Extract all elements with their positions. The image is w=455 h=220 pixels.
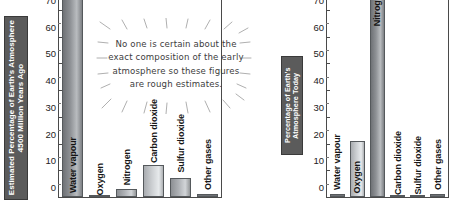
chart-panel-past: Estimated Percentage of Earth's Atmosphe…	[0, 0, 228, 220]
bar-slot-water-vapour-past: Water vapour	[59, 0, 86, 197]
x-axis-baseline-today	[326, 197, 449, 198]
y-tick-0-past	[58, 197, 62, 198]
bar-nitrogen-past[interactable]	[116, 189, 137, 197]
y-ticklabel-0-past: 0	[51, 182, 56, 193]
y-ticklabel-20-today: 20	[313, 128, 324, 139]
two-chart-figure: Estimated Percentage of Earth's Atmosphe…	[0, 0, 455, 220]
bar-water-vapour-today[interactable]	[330, 194, 345, 197]
bar-other-gases-past[interactable]	[197, 194, 218, 197]
y-ticklabel-70-past: 70	[45, 0, 56, 5]
bar-slot-oxygen-today: Oxygen	[347, 0, 367, 197]
bar-group-today: Water vapour Oxygen Nitrogen Carbon diox…	[327, 0, 448, 197]
bar-label-other-gases-today: Other gases	[433, 139, 443, 190]
annotation-text: No one is certain about the exact compos…	[106, 38, 246, 91]
y-axis-title-today: Percentage of Earth's Atmosphere Today	[281, 56, 303, 155]
bar-label-sulfur-dioxide-past: Sulfur dioxide	[176, 114, 186, 173]
y-ticklabel-10-today: 10	[313, 155, 324, 166]
bar-label-oxygen-past: Oxygen	[95, 163, 105, 195]
y-ticklabel-70-today: 70	[313, 0, 324, 5]
plot-area-today: 0 10 20 30 40 50 60 70 80 Water vapour O…	[304, 0, 449, 214]
plot-right-border-today	[448, 0, 449, 198]
y-ticklabel-60-today: 60	[313, 21, 324, 32]
bar-slot-sulfur-dioxide-today: Sulfur dioxide	[408, 0, 428, 197]
y-ticklabel-30-past: 30	[45, 101, 56, 112]
y-ticklabel-10-past: 10	[45, 155, 56, 166]
bar-label-sulfur-dioxide-today: Sulfur dioxide	[413, 136, 423, 195]
bar-oxygen-past[interactable]	[89, 195, 110, 197]
y-ticklabel-40-today: 40	[313, 75, 324, 86]
bar-oxygen-today[interactable]	[350, 141, 365, 197]
bar-sulfur-dioxide-past[interactable]	[170, 178, 191, 197]
y-ticklabel-0-today: 0	[319, 182, 324, 193]
bar-nitrogen-today[interactable]	[370, 0, 385, 197]
bar-slot-water-vapour-today: Water vapour	[327, 0, 347, 197]
bar-slot-carbon-dioxide-today: Carbon dioxide	[388, 0, 408, 197]
bar-label-water-vapour-today: Water vapour	[332, 134, 342, 190]
y-axis-title-today-text: Percentage of Earth's Atmosphere Today	[284, 57, 301, 154]
bar-water-vapour-past[interactable]	[62, 0, 83, 197]
bar-label-other-gases-past: Other gases	[203, 139, 213, 190]
y-axis-title-past-text: Estimated Percentage of Earth's Atmosphe…	[7, 20, 26, 195]
y-ticklabel-40-past: 40	[45, 75, 56, 86]
y-ticklabel-20-past: 20	[45, 128, 56, 139]
y-ticklabel-50-today: 50	[313, 48, 324, 59]
bar-label-carbon-dioxide-today: Carbon dioxide	[393, 131, 403, 195]
bar-other-gases-today[interactable]	[430, 194, 445, 197]
bar-carbon-dioxide-past[interactable]	[143, 165, 164, 197]
bar-slot-nitrogen-today: Nitrogen	[367, 0, 387, 197]
bar-sulfur-dioxide-today[interactable]	[410, 195, 425, 197]
bar-slot-other-gases-today: Other gases	[428, 0, 448, 197]
y-ticklabel-50-past: 50	[45, 48, 56, 59]
y-tick-0-today	[326, 197, 330, 198]
chart-panel-today: Percentage of Earth's Atmosphere Today 0	[228, 0, 455, 220]
bar-label-nitrogen-past: Nitrogen	[122, 149, 132, 185]
bar-carbon-dioxide-today[interactable]	[390, 195, 405, 197]
y-ticklabel-60-past: 60	[45, 21, 56, 32]
y-ticklabel-30-today: 30	[313, 101, 324, 112]
y-axis-title-past: Estimated Percentage of Earth's Atmosphe…	[4, 16, 28, 200]
x-axis-baseline-past	[58, 197, 222, 198]
